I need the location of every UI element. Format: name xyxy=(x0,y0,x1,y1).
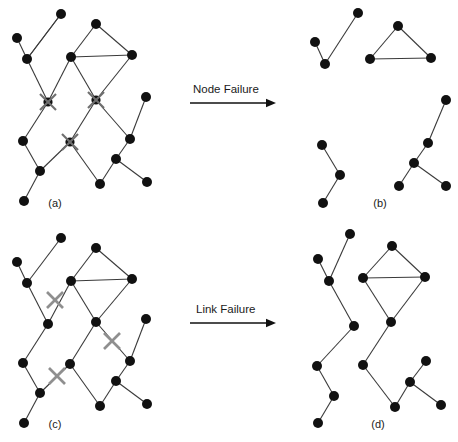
network-node[interactable] xyxy=(358,273,368,283)
network-node[interactable] xyxy=(365,54,375,64)
network-node[interactable] xyxy=(441,95,451,105)
network-edge xyxy=(48,57,71,102)
network-node[interactable] xyxy=(142,177,152,187)
network-edge xyxy=(317,366,334,396)
network-node[interactable] xyxy=(19,196,29,206)
network-node[interactable] xyxy=(65,359,75,369)
network-node[interactable] xyxy=(423,138,433,148)
network-node[interactable] xyxy=(358,360,368,370)
network-node[interactable] xyxy=(95,179,105,189)
failed-node-marker xyxy=(62,134,78,150)
network-node[interactable] xyxy=(387,241,397,251)
network-node[interactable] xyxy=(12,257,22,267)
network-node[interactable] xyxy=(91,243,101,253)
network-edge xyxy=(27,238,61,283)
network-edge xyxy=(363,246,392,278)
network-edge xyxy=(27,59,48,102)
network-node[interactable] xyxy=(390,402,400,412)
network-node[interactable] xyxy=(19,418,29,428)
network-node[interactable] xyxy=(95,401,105,411)
network-edge xyxy=(27,14,61,59)
network-edge xyxy=(329,281,354,326)
network-node[interactable] xyxy=(91,317,101,327)
network-node[interactable] xyxy=(22,54,32,64)
network-node[interactable] xyxy=(35,388,45,398)
network-node[interactable] xyxy=(18,358,28,368)
panel-label-a: (a) xyxy=(48,197,61,209)
network-edge xyxy=(96,279,132,322)
network-edge xyxy=(370,26,398,59)
arrow-link-failure: Link Failure xyxy=(190,303,276,327)
network-node[interactable] xyxy=(393,21,403,31)
network-node[interactable] xyxy=(56,233,66,243)
network-edge xyxy=(370,58,431,59)
network-node[interactable] xyxy=(125,134,135,144)
network-node[interactable] xyxy=(394,181,404,191)
panel-c: (c) xyxy=(12,233,152,430)
network-edge xyxy=(363,277,425,278)
network-edge xyxy=(363,322,391,365)
network-node[interactable] xyxy=(141,92,151,102)
network-node[interactable] xyxy=(405,377,415,387)
network-node[interactable] xyxy=(125,356,135,366)
network-node[interactable] xyxy=(426,53,436,63)
network-node[interactable] xyxy=(18,136,28,146)
arrow-label-node-failure: Node Failure xyxy=(193,83,259,95)
network-node[interactable] xyxy=(324,276,334,286)
network-node[interactable] xyxy=(310,37,320,47)
network-node[interactable] xyxy=(91,19,101,29)
network-node[interactable] xyxy=(66,52,76,62)
network-node[interactable] xyxy=(421,356,431,366)
network-node[interactable] xyxy=(441,181,451,191)
network-edge xyxy=(392,246,425,277)
network-edge xyxy=(23,363,40,393)
network-node[interactable] xyxy=(349,321,359,331)
network-node[interactable] xyxy=(142,399,152,409)
network-node[interactable] xyxy=(317,140,327,150)
network-node[interactable] xyxy=(43,319,53,329)
network-node[interactable] xyxy=(141,314,151,324)
network-node[interactable] xyxy=(111,154,121,164)
network-node[interactable] xyxy=(111,376,121,386)
network-node[interactable] xyxy=(127,50,137,60)
network-node[interactable] xyxy=(12,33,22,43)
network-node[interactable] xyxy=(22,278,32,288)
network-node[interactable] xyxy=(409,158,419,168)
panel-c-nodes xyxy=(12,233,152,428)
network-node[interactable] xyxy=(345,229,355,239)
network-edge xyxy=(71,24,96,57)
network-edge xyxy=(391,277,425,322)
panel-b: (b) xyxy=(310,8,451,209)
network-node[interactable] xyxy=(320,59,330,69)
network-node[interactable] xyxy=(313,254,323,264)
network-node[interactable] xyxy=(127,274,137,284)
network-node[interactable] xyxy=(329,391,339,401)
network-edge xyxy=(363,278,391,322)
arrow-label-link-failure: Link Failure xyxy=(196,303,255,315)
network-node[interactable] xyxy=(313,418,323,428)
panel-a: (a) xyxy=(12,9,152,209)
network-node[interactable] xyxy=(56,9,66,19)
network-node[interactable] xyxy=(386,317,396,327)
network-node[interactable] xyxy=(335,170,345,180)
network-edge xyxy=(130,97,146,139)
panel-label-d: (d) xyxy=(371,418,384,430)
panel-d: (d) xyxy=(312,229,446,430)
failed-link-marker xyxy=(104,333,120,349)
network-edge xyxy=(23,141,40,171)
network-node[interactable] xyxy=(312,361,322,371)
network-node[interactable] xyxy=(35,166,45,176)
network-edge xyxy=(70,142,100,184)
network-node[interactable] xyxy=(420,272,430,282)
failed-node-marker xyxy=(40,94,56,110)
panel-b-nodes xyxy=(310,8,451,208)
failed-node-marker xyxy=(88,92,104,108)
network-node[interactable] xyxy=(436,400,446,410)
network-edge xyxy=(23,324,48,363)
network-failure-figure: (a)(b)(c)(d)Node FailureLink Failure xyxy=(0,0,458,442)
network-node[interactable] xyxy=(66,276,76,286)
network-node[interactable] xyxy=(353,8,363,18)
network-edge xyxy=(322,145,340,175)
network-edge xyxy=(398,26,431,58)
network-node[interactable] xyxy=(318,198,328,208)
